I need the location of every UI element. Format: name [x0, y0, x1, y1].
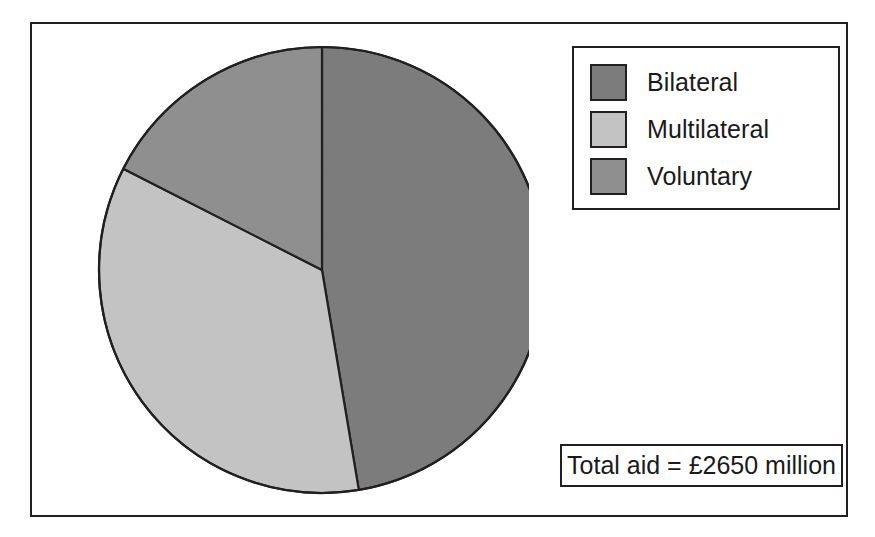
legend-label-bilateral: Bilateral	[647, 70, 738, 95]
legend-items: Bilateral Multilateral Voluntary	[590, 59, 830, 200]
pie-slice-bilateral[interactable]	[322, 47, 529, 490]
legend-swatch-bilateral	[590, 64, 627, 101]
legend-label-voluntary: Voluntary	[647, 164, 752, 189]
legend-item-multilateral[interactable]: Multilateral	[590, 106, 830, 153]
legend-swatch-voluntary	[590, 158, 627, 195]
legend-item-bilateral[interactable]: Bilateral	[590, 59, 830, 106]
total-aid-label: Total aid = £2650 million	[567, 453, 836, 478]
total-aid-box: Total aid = £2650 million	[560, 444, 843, 487]
legend-label-multilateral: Multilateral	[647, 117, 769, 142]
legend-swatch-multilateral	[590, 111, 627, 148]
legend: Bilateral Multilateral Voluntary	[572, 46, 840, 210]
legend-item-voluntary[interactable]: Voluntary	[590, 153, 830, 200]
figure-border: Bilateral Multilateral Voluntary Total a…	[30, 22, 848, 517]
pie-chart-figure: Bilateral Multilateral Voluntary Total a…	[0, 0, 875, 537]
pie-chart-svg	[69, 25, 529, 505]
pie-chart-area	[69, 25, 529, 505]
